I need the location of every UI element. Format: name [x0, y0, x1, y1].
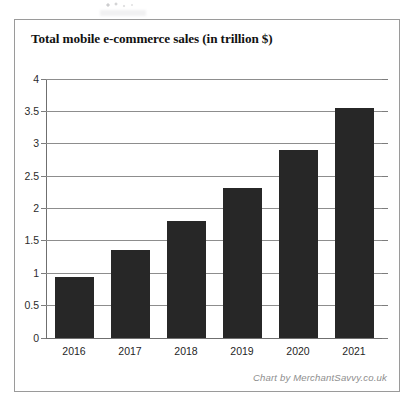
bar-2021: [335, 108, 374, 339]
x-axis-tick-label: 2019: [230, 345, 253, 357]
bar-2020: [279, 150, 318, 338]
y-tick-mark: [41, 305, 46, 306]
y-axis-tick-label: 2: [33, 202, 39, 214]
gridline: 2: [46, 208, 382, 209]
bar-2018: [167, 221, 206, 338]
gridline: 0: [46, 338, 382, 339]
chart-title: Total mobile e-commerce sales (in trilli…: [31, 31, 273, 47]
y-tick-mark-right: [382, 79, 388, 80]
y-tick-mark: [41, 79, 46, 80]
y-tick-mark: [41, 143, 46, 144]
gridline: 1.5: [46, 240, 382, 241]
y-axis-tick-label: 4: [33, 73, 39, 85]
y-axis-tick-label: 0.5: [24, 299, 39, 311]
scan-smudge: [100, 10, 146, 16]
bar-2019: [223, 188, 262, 338]
y-tick-mark-right: [382, 240, 388, 241]
y-tick-mark-right: [382, 273, 388, 274]
y-tick-mark: [41, 111, 46, 112]
y-tick-mark: [41, 176, 46, 177]
gridline: 3: [46, 143, 382, 144]
y-tick-mark: [41, 208, 46, 209]
y-tick-mark-right: [382, 208, 388, 209]
y-tick-mark-right: [382, 111, 388, 112]
x-axis-tick-label: 2016: [62, 345, 85, 357]
gridline: 4: [46, 79, 382, 80]
y-axis-tick-label: 0: [33, 332, 39, 344]
plot-area: 00.511.522.533.54 2016201720182019202020…: [46, 79, 382, 338]
gridline: 1: [46, 273, 382, 274]
y-tick-mark: [41, 273, 46, 274]
y-tick-mark-right: [382, 305, 388, 306]
y-tick-mark: [41, 338, 46, 339]
chart-card: Total mobile e-commerce sales (in trilli…: [14, 19, 400, 392]
chart-credit: Chart by MerchantSavvy.co.uk: [253, 372, 387, 383]
y-tick-mark: [41, 240, 46, 241]
gridline: 2.5: [46, 176, 382, 177]
y-tick-mark-right: [382, 338, 388, 339]
y-axis-tick-label: 3: [33, 137, 39, 149]
y-tick-mark-right: [382, 176, 388, 177]
x-axis-tick-label: 2020: [286, 345, 309, 357]
bar-2017: [111, 250, 150, 338]
y-axis-tick-label: 1: [33, 267, 39, 279]
x-axis-tick-label: 2018: [174, 345, 197, 357]
y-tick-mark-right: [382, 143, 388, 144]
y-axis-tick-label: 1.5: [24, 234, 39, 246]
y-axis-tick-label: 2.5: [24, 170, 39, 182]
bar-2016: [55, 277, 94, 339]
y-axis-tick-label: 3.5: [24, 105, 39, 117]
gridline: 0.5: [46, 305, 382, 306]
x-axis-tick-label: 2017: [118, 345, 141, 357]
gridline: 3.5: [46, 111, 382, 112]
x-axis-tick-label: 2021: [342, 345, 365, 357]
